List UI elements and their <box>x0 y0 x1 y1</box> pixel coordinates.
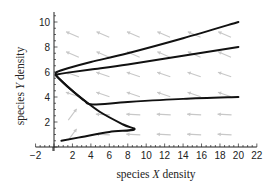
x-tick-label: 10 <box>141 150 153 161</box>
x-tick-label: 18 <box>214 150 226 161</box>
y-tick-label: 4 <box>44 92 50 103</box>
arrowhead-icon <box>157 112 160 116</box>
x-tick-label: 14 <box>178 150 190 161</box>
x-tick-label: 16 <box>196 150 208 161</box>
chart-canvas: −2246810121416182022246810 species X den… <box>0 0 277 190</box>
x-tick-label: 8 <box>125 150 131 161</box>
x-axis-label: species X density <box>116 168 195 181</box>
y-axis-label: species Y density <box>14 46 27 125</box>
arrowhead-icon <box>187 132 190 136</box>
trajectory-2 <box>56 47 239 75</box>
arrowhead-icon <box>96 112 99 116</box>
x-tick-label: −2 <box>30 150 42 161</box>
trajectories <box>56 22 239 141</box>
y-tick-label: 10 <box>39 17 51 28</box>
x-tick-label: 2 <box>70 150 76 161</box>
trajectory-4 <box>56 75 135 141</box>
x-tick-label: 12 <box>159 150 171 161</box>
y-tick-label: 8 <box>44 42 50 53</box>
arrowhead-icon <box>126 132 129 136</box>
x-tick-label: 4 <box>88 150 94 161</box>
x-tick-label: 6 <box>107 150 113 161</box>
y-tick-label: 6 <box>44 67 50 78</box>
arrowhead-icon <box>157 132 160 136</box>
arrowhead-icon <box>126 112 129 116</box>
y-tick-label: 2 <box>44 117 50 128</box>
arrowhead-icon <box>187 112 190 116</box>
phase-portrait-chart: −2246810121416182022246810 species X den… <box>0 0 277 190</box>
trajectory-1 <box>56 22 239 75</box>
x-tick-label: 22 <box>251 150 263 161</box>
x-tick-label: 20 <box>233 150 245 161</box>
arrowhead-icon <box>218 132 221 136</box>
arrowhead-icon <box>218 112 221 116</box>
